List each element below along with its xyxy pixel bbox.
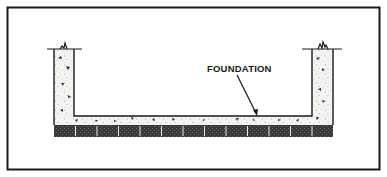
ground-line-right (302, 42, 342, 49)
concrete-foundation (54, 49, 333, 125)
foundation-outline (54, 49, 333, 125)
aggregate-stones (58, 56, 325, 122)
foundation-diagram: FOUNDATION (0, 0, 387, 177)
leader-arrow (237, 75, 258, 116)
ground-line-left (47, 43, 82, 49)
foundation-label: FOUNDATION (207, 63, 272, 74)
footing-blocks (54, 125, 333, 137)
